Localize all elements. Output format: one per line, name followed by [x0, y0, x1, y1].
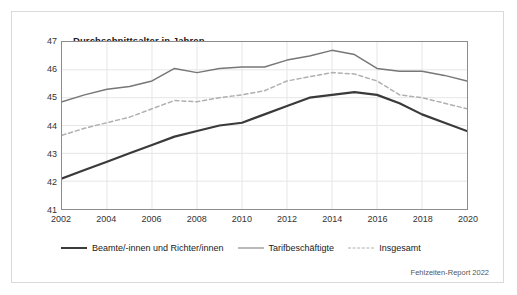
solid-dark-line-icon — [61, 244, 87, 252]
source-note: Fehlzeiten-Report 2022 — [411, 268, 489, 277]
legend-item-label: Insgesamt — [379, 243, 421, 253]
y-axis-tick-labels: 41424344454647 — [31, 41, 57, 210]
series-line — [62, 50, 467, 101]
chart-figure: Durchschnittsalter in Jahren 41424344454… — [11, 11, 504, 283]
x-tick-label: 2004 — [96, 214, 116, 224]
x-tick-label: 2014 — [322, 214, 342, 224]
x-tick-label: 2010 — [232, 214, 252, 224]
plot-area — [61, 41, 468, 210]
x-tick-label: 2020 — [458, 214, 478, 224]
y-tick-label: 42 — [31, 177, 57, 187]
legend-item-label: Tarifbeschäftigte — [269, 243, 335, 253]
legend-item-label: Beamte/-innen und Richter/innen — [92, 243, 224, 253]
y-tick-label: 43 — [31, 149, 57, 159]
x-tick-label: 2016 — [368, 214, 388, 224]
solid-gray-line-icon — [238, 244, 264, 252]
x-axis-tick-labels: 2002200420062008201020122014201620182020 — [61, 214, 468, 228]
y-tick-label: 46 — [31, 64, 57, 74]
chart-plot-svg — [62, 42, 467, 209]
x-tick-label: 2008 — [187, 214, 207, 224]
y-tick-label: 45 — [31, 92, 57, 102]
legend-item[interactable]: Beamte/-innen und Richter/innen — [61, 243, 224, 253]
x-tick-label: 2002 — [51, 214, 71, 224]
x-tick-label: 2006 — [141, 214, 161, 224]
dashed-gray-line-icon — [348, 244, 374, 252]
y-tick-label: 47 — [31, 36, 57, 46]
chart-legend: Beamte/-innen und Richter/innenTarifbesc… — [61, 240, 481, 256]
legend-item[interactable]: Insgesamt — [348, 243, 421, 253]
series-line — [62, 92, 467, 178]
x-tick-label: 2018 — [413, 214, 433, 224]
y-tick-label: 44 — [31, 121, 57, 131]
legend-item[interactable]: Tarifbeschäftigte — [238, 243, 335, 253]
x-tick-label: 2012 — [277, 214, 297, 224]
